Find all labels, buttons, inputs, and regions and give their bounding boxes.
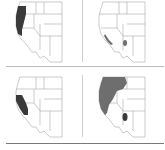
range-map-top-right — [83, 0, 165, 64]
range-map-bottom-left — [0, 75, 82, 139]
bottom-rule — [6, 143, 164, 144]
range-shading — [16, 95, 28, 115]
row-divider — [6, 66, 164, 67]
column-divider-top — [82, 0, 83, 62]
range-shading-patch — [123, 113, 128, 121]
range-map-top-left — [0, 0, 82, 64]
range-shading-patch — [123, 40, 127, 46]
range-map-bottom-right — [83, 75, 165, 139]
range-shading — [16, 6, 26, 36]
